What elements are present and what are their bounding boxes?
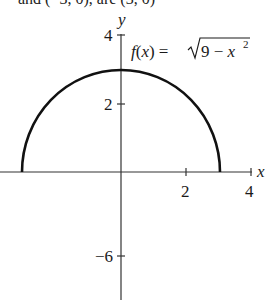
function-label: f(x) = 9 − x 2 (131, 38, 250, 61)
function-radicand: 9 − x (201, 42, 236, 61)
y-tick-label-neg6: −6 (95, 247, 113, 266)
x-tick-label-4: 4 (245, 182, 254, 201)
y-tick-label-4: 4 (104, 26, 113, 45)
function-exponent: 2 (243, 38, 249, 50)
x-axis-label: x (256, 162, 265, 181)
y-axis-label: y (116, 10, 126, 29)
y-tick-label-2: 2 (104, 95, 113, 114)
chart: 2 4 4 2 −6 x y f(x) = 9 − x 2 (0, 0, 270, 305)
function-lhs: f(x) = (131, 42, 168, 61)
x-tick-label-2: 2 (181, 182, 190, 201)
